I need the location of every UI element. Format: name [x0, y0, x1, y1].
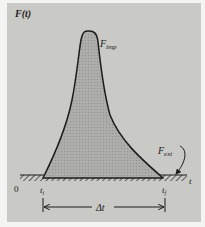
x-axis-label: t [189, 176, 192, 186]
external-force-label: Fext [157, 145, 173, 158]
impulse-curve-label: Fimp [99, 38, 117, 51]
start-time-label: ti [40, 185, 45, 196]
impulse-force-curve [43, 31, 163, 178]
origin-label: 0 [14, 184, 19, 194]
impulse-force-diagram: F(t) Fimp Fext t 0 ti tf Δt [0, 0, 205, 227]
interval-label: Δt [95, 202, 105, 213]
end-time-label: tf [162, 185, 168, 196]
external-force-pointer-arrow [176, 146, 185, 174]
y-axis-label: F(t) [14, 8, 31, 20]
